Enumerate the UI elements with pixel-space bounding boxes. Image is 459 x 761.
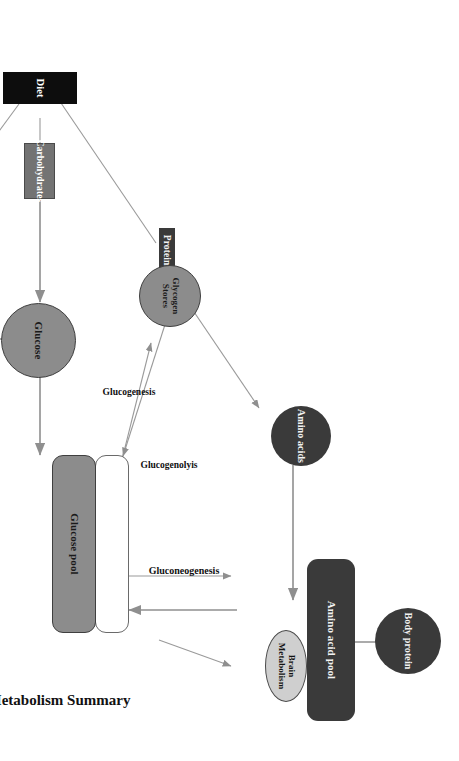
node-brain-metabolism[interactable]: Brain Metabolism (265, 630, 307, 702)
node-glucose[interactable]: Glucose (1, 303, 76, 378)
edge-label-glucogenolyis: Glucogenolyis (140, 460, 197, 470)
node-glycogen-stores[interactable]: Glycogen Stores (139, 265, 201, 327)
edge-label-gluconeogenesis: Gluconeogenesis (149, 565, 220, 576)
node-amino-acids-label: Amino acids (296, 409, 307, 463)
node-body-protein-label: Body protein (403, 613, 414, 670)
node-carbohydrates[interactable]: Carbohydrates (24, 143, 55, 199)
metabolism-summary-diagram: Diet Proteins Carbohydrates Fats Amino a… (0, 0, 459, 761)
node-brain-metabolism-label: Brain Metabolism (276, 631, 295, 701)
node-glucose-label: Glucose (33, 322, 45, 360)
node-glucose-pool-overflow[interactable] (95, 455, 129, 633)
node-body-protein[interactable]: Body protein (375, 608, 441, 674)
node-glycogen-stores-label: Glycogen Stores (160, 266, 179, 326)
diagram-canvas-wrapper: Diet Proteins Carbohydrates Fats Amino a… (0, 0, 459, 761)
edge-label-glucogenesis: Glucogenesis (103, 387, 156, 397)
node-amino-acids[interactable]: Amino acids (271, 406, 331, 466)
node-amino-acid-pool[interactable]: Amino acid pool (307, 559, 355, 721)
node-amino-acid-pool-label: Amino acid pool (325, 601, 337, 680)
node-diet[interactable]: Diet (3, 72, 77, 104)
diagram-title: Metabolism Summary (0, 692, 130, 709)
node-glucose-pool[interactable]: Glucose pool (52, 455, 96, 633)
node-carbohydrates-label: Carbohydrates (34, 140, 44, 203)
node-glucose-pool-label: Glucose pool (68, 513, 80, 574)
node-diet-label: Diet (34, 78, 45, 97)
